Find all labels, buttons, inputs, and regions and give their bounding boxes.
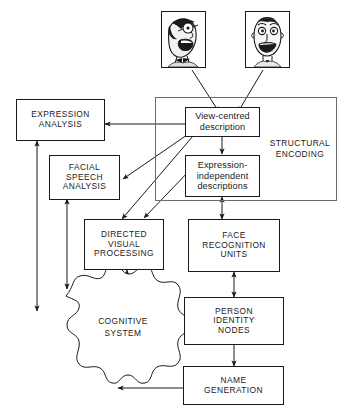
structural-encoding-label: STRUCTURAL ENCODING [252,138,348,160]
node-directed-visual-processing-label: DIRECTED VISUAL PROCESSING [94,230,154,259]
node-name-generation[interactable]: NAME GENERATION [183,366,284,405]
node-name-generation-label: NAME GENERATION [204,376,263,395]
node-face-recognition-units-label: FACE RECOGNITION UNITS [202,231,266,260]
node-view-centred-description[interactable]: View-centred description [185,107,260,137]
face-photo-left-illustration [162,12,205,67]
face-recognition-model-diagram: STRUCTURAL ENCODING EXPRESSION ANALYSIS … [0,0,352,416]
node-person-identity-nodes[interactable]: PERSON IDENTITY NODES [184,297,284,345]
face-photo-left [161,11,206,68]
node-directed-visual-processing[interactable]: DIRECTED VISUAL PROCESSING [84,219,164,270]
node-face-recognition-units[interactable]: FACE RECOGNITION UNITS [188,219,280,272]
node-view-centred-description-label: View-centred description [195,111,250,132]
node-expression-independent-descriptions[interactable]: Expression- independent descriptions [185,155,260,197]
face-photo-right [245,11,290,68]
node-person-identity-nodes-label: PERSON IDENTITY NODES [213,307,254,336]
node-expression-analysis-label: EXPRESSION ANALYSIS [31,110,89,129]
node-cognitive-system[interactable]: COGNITIVE SYSTEM [62,316,184,340]
node-facial-speech-analysis[interactable]: FACIAL SPEECH ANALYSIS [49,155,120,200]
face-photo-right-illustration [246,12,289,67]
node-expression-independent-descriptions-label: Expression- independent descriptions [197,160,249,192]
node-expression-analysis[interactable]: EXPRESSION ANALYSIS [16,99,105,141]
node-facial-speech-analysis-label: FACIAL SPEECH ANALYSIS [63,163,107,192]
